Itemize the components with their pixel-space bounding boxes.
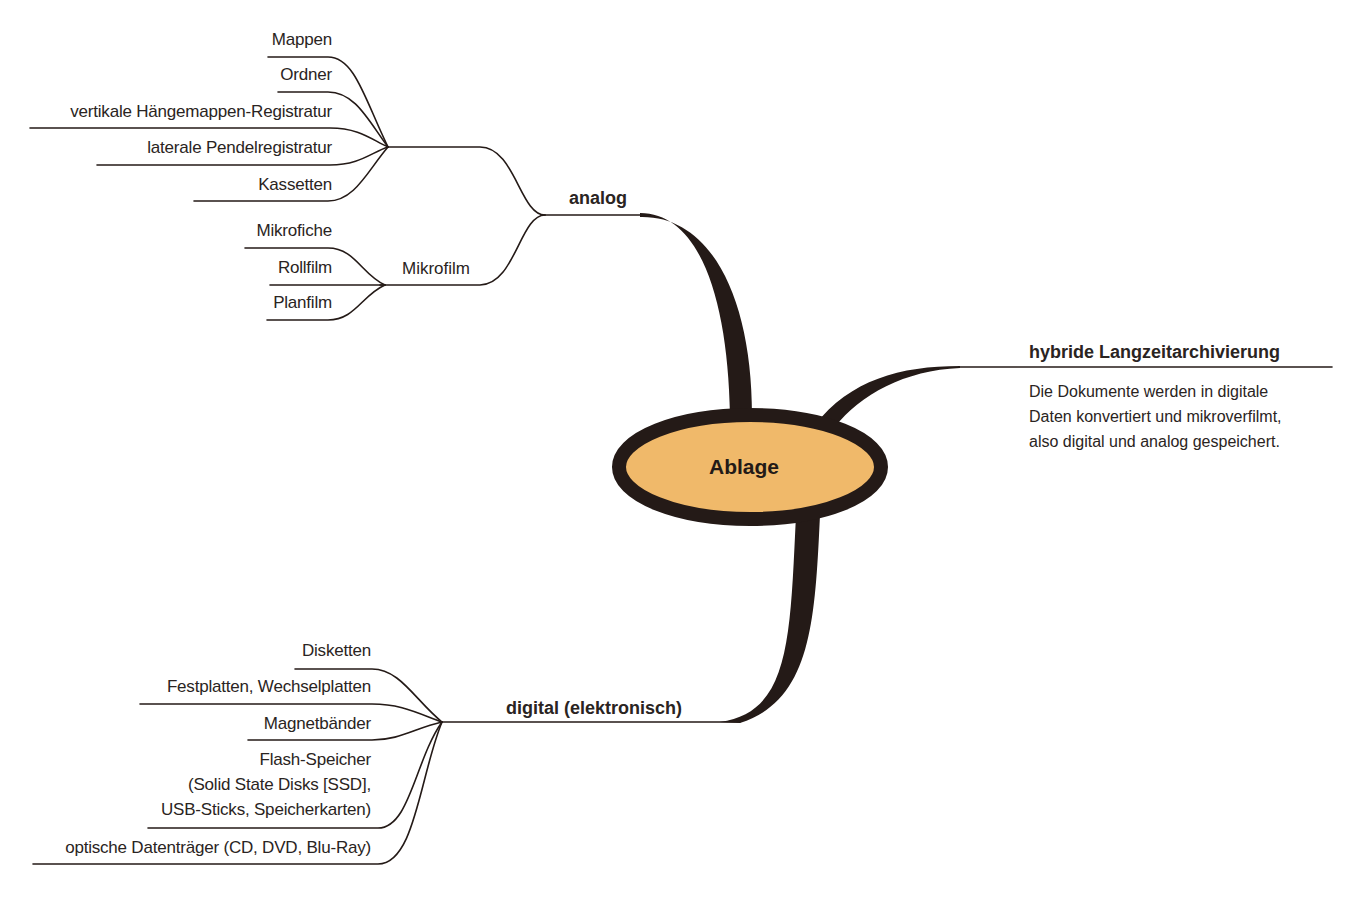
leaf-ordner: Ordner	[280, 64, 332, 86]
hybrid-description-line-1: Die Dokumente werden in digitale	[1029, 380, 1268, 404]
trunk-analog	[640, 213, 752, 415]
branch-analog-label: analog	[569, 188, 627, 209]
trunk-digital	[720, 515, 820, 723]
leaf-magnetbaender: Magnetbänder	[264, 713, 371, 735]
leaf-optisch: optische Datenträger (CD, DVD, Blu-Ray)	[65, 837, 371, 859]
leaf-rollfilm: Rollfilm	[278, 257, 332, 279]
leaf-flash-line-3: USB-Sticks, Speicherkarten)	[161, 799, 371, 821]
leaf-kassetten: Kassetten	[258, 174, 332, 196]
sub-mikrofilm-label: Mikrofilm	[402, 259, 470, 279]
center-label: Ablage	[709, 455, 779, 479]
leaf-laterale: laterale Pendelregistratur	[147, 137, 332, 159]
hybrid-description-line-3: also digital und analog gespeichert.	[1029, 430, 1280, 454]
branch-hybrid-label: hybride Langzeitarchivierung	[1029, 342, 1280, 363]
leaf-mappen: Mappen	[272, 29, 332, 51]
hybrid-description-line-2: Daten konvertiert und mikroverfilmt,	[1029, 405, 1282, 429]
leaf-vertikale: vertikale Hängemappen-Registratur	[70, 101, 332, 123]
leaf-planfilm: Planfilm	[273, 292, 332, 314]
trunk-hybrid	[815, 366, 960, 427]
connector-analog-hub	[388, 147, 545, 215]
leaf-flash-line-1: Flash-Speicher	[259, 749, 371, 771]
leaf-mikrofiche: Mikrofiche	[257, 220, 332, 242]
branch-digital-label: digital (elektronisch)	[506, 698, 682, 719]
leaf-disketten: Disketten	[302, 640, 371, 662]
leaf-flash-line-2: (Solid State Disks [SSD],	[188, 774, 371, 796]
leaf-festplatten: Festplatten, Wechselplatten	[167, 676, 371, 698]
